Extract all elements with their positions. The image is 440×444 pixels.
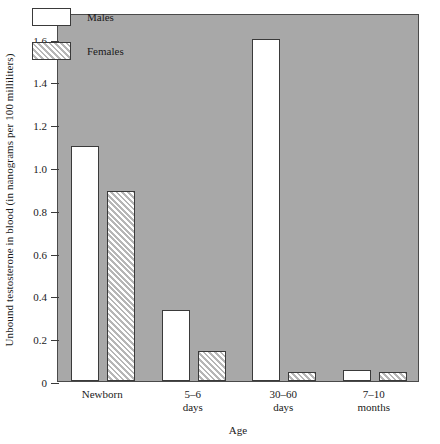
x-category-label: Newborn <box>82 388 123 401</box>
legend-swatch-females-icon <box>32 42 71 60</box>
legend-item-females: Females <box>32 42 124 60</box>
y-tick-label: 1.0 <box>33 163 47 175</box>
y-tick-mark <box>51 297 59 298</box>
bar-females-group-3 <box>379 372 407 381</box>
bar-males-group-0 <box>71 146 99 381</box>
y-tick-mark <box>51 383 59 384</box>
legend-label-females: Females <box>87 45 124 57</box>
y-tick-label: 0.4 <box>33 291 47 303</box>
x-category-label: 7–10 months <box>358 388 390 414</box>
y-tick-mark <box>51 169 59 170</box>
bar-males-group-2 <box>252 39 280 381</box>
y-tick-label: 1.4 <box>33 77 47 89</box>
y-tick-label: 1.2 <box>33 120 47 132</box>
y-tick-mark <box>51 255 59 256</box>
y-tick-mark <box>51 340 59 341</box>
bar-males-group-3 <box>343 370 371 381</box>
y-tick-label: 0 <box>42 377 48 389</box>
legend-label-males: Males <box>87 11 114 23</box>
bar-females-group-0 <box>107 191 135 381</box>
y-tick-mark <box>51 212 59 213</box>
bar-males-group-1 <box>162 310 190 381</box>
y-tick-label: 0.6 <box>33 249 47 261</box>
y-axis-title: Unbound testosterone in blood (in nanogr… <box>0 0 18 400</box>
legend-item-males: Males <box>32 8 124 26</box>
y-tick-mark <box>51 126 59 127</box>
x-category-label: 30–60 days <box>270 388 298 414</box>
y-tick-label: 0.2 <box>33 334 47 346</box>
y-tick-label: 0.8 <box>33 206 47 218</box>
legend-swatch-males-icon <box>32 8 71 26</box>
testosterone-bar-chart: Unbound testosterone in blood (in nanogr… <box>0 0 440 444</box>
chart-legend: Males Females <box>32 8 124 76</box>
x-category-label: 5–6 days <box>183 388 203 414</box>
y-tick-mark <box>51 83 59 84</box>
bar-females-group-2 <box>288 372 316 381</box>
x-axis-title: Age <box>57 424 419 436</box>
bar-females-group-1 <box>198 351 226 381</box>
